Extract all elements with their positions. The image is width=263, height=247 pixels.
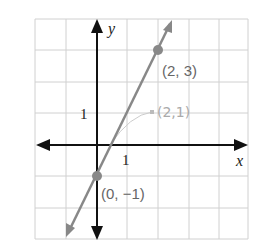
arrow-down-icon [91,226,103,240]
arrow-right-icon [234,139,248,151]
arrow-left-icon [36,139,50,151]
y-axis-label: y [106,20,116,38]
grid [35,19,248,239]
y-tick-label: 1 [80,106,88,122]
point-2-3 [153,45,163,55]
coordinate-plane: y x 1 1 (2, 3) (0, −1) (2,1) [0,0,263,247]
x-tick-label: 1 [122,152,130,168]
axes [42,25,242,234]
x-axis-label: x [235,152,243,169]
point-0-neg1 [92,171,102,181]
point-label-0-neg1: (0, −1) [101,185,145,202]
line-arrow-up-icon [163,20,172,33]
axis-arrows [36,19,248,240]
point-label-2-3: (2, 3) [162,62,197,79]
handwritten-label: (2,1) [157,104,190,120]
handwritten-point [150,110,154,114]
handwritten-curve [110,112,152,145]
arrow-up-icon [91,19,103,33]
